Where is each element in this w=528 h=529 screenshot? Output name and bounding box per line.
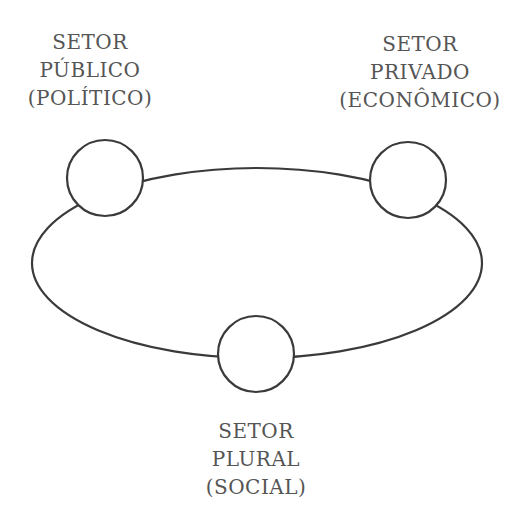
node-circle-privado xyxy=(370,142,446,218)
label-line: (ECONÔMICO) xyxy=(330,86,510,114)
label-line: SETOR xyxy=(10,28,170,56)
label-setor-privado: SETOR PRIVADO (ECONÔMICO) xyxy=(330,30,510,114)
label-line: SETOR xyxy=(186,417,326,445)
label-line: (SOCIAL) xyxy=(186,473,326,501)
label-line: (POLÍTICO) xyxy=(10,84,170,112)
label-setor-plural: SETOR PLURAL (SOCIAL) xyxy=(186,417,326,501)
label-line: PLURAL xyxy=(186,445,326,473)
label-line: PÚBLICO xyxy=(10,56,170,84)
node-circle-publico xyxy=(67,140,143,216)
label-line: SETOR xyxy=(330,30,510,58)
label-line: PRIVADO xyxy=(330,58,510,86)
node-circle-plural xyxy=(218,316,294,392)
label-setor-publico: SETOR PÚBLICO (POLÍTICO) xyxy=(10,28,170,112)
